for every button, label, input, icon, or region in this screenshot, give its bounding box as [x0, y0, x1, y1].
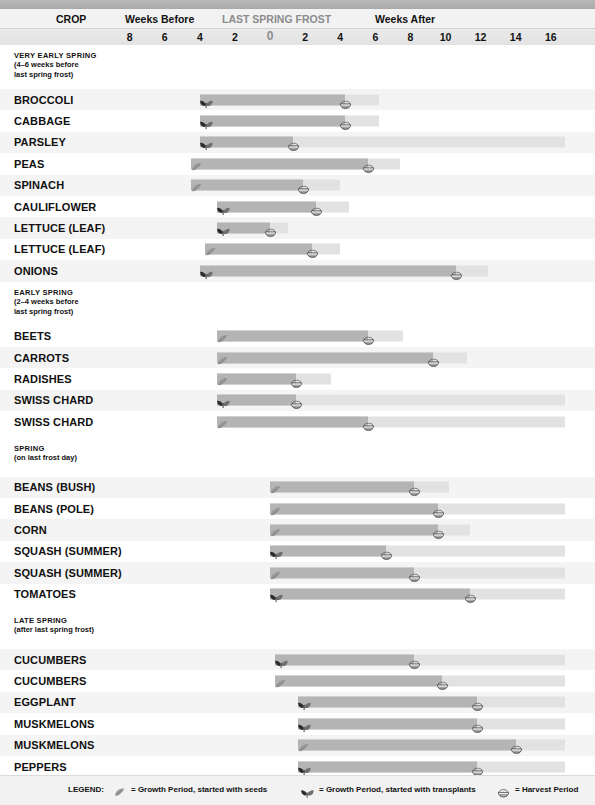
growth-period-bar	[217, 352, 433, 363]
growth-period-bar	[298, 718, 477, 729]
crop-label: LETTUCE (LEAF)	[14, 243, 105, 255]
crop-label: SWISS CHARD	[14, 416, 93, 428]
growth-period-bar	[270, 503, 438, 514]
section-caption: SPRING(on last frost day)	[14, 444, 77, 463]
axis-tick-14-11: 14	[510, 31, 522, 43]
crop-label: MUSKMELONS	[14, 718, 94, 730]
table-row[interactable]: CUCUMBERS	[0, 670, 595, 691]
crop-label: BEANS (BUSH)	[14, 481, 95, 493]
crop-label: SWISS CHARD	[14, 394, 93, 406]
axis-tick-2-3: 2	[232, 31, 238, 43]
crop-label: ONIONS	[14, 265, 58, 277]
table-row[interactable]: CARROTS	[0, 347, 595, 368]
harvest-basket-icon	[290, 396, 303, 405]
axis-tick-8-8: 8	[407, 31, 413, 43]
crop-label: BEETS	[14, 330, 51, 342]
table-row[interactable]: PEAS	[0, 153, 595, 174]
growth-period-bar	[200, 265, 456, 276]
harvest-basket-icon	[339, 117, 352, 126]
table-row[interactable]: SQUASH (SUMMER)	[0, 541, 595, 562]
harvest-basket-icon	[471, 719, 484, 728]
table-row[interactable]: EGGPLANT	[0, 692, 595, 713]
transplant-icon	[216, 223, 229, 234]
transplant-icon	[199, 116, 212, 127]
crop-label: CARROTS	[14, 352, 69, 364]
chart-header: CROP Weeks Before LAST SPRING FROST Week…	[0, 9, 595, 28]
harvest-basket-icon	[362, 332, 375, 341]
axis-tick-4-6: 4	[337, 31, 343, 43]
table-row[interactable]: LETTUCE (LEAF)	[0, 239, 595, 260]
growth-period-bar	[275, 676, 442, 687]
growth-period-bar	[270, 525, 438, 536]
table-row[interactable]: MUSKMELONS	[0, 735, 595, 756]
section-caption: VERY EARLY SPRING(4–6 weeks beforelast s…	[14, 51, 97, 80]
table-row[interactable]: PARSLEY	[0, 132, 595, 153]
table-row[interactable]: CAULIFLOWER	[0, 196, 595, 217]
table-row[interactable]: CUCUMBERS	[0, 649, 595, 670]
harvest-basket-icon	[362, 417, 375, 426]
seed-icon	[216, 331, 229, 342]
crop-label: PEAS	[14, 158, 44, 170]
growth-period-bar	[191, 180, 303, 191]
table-row[interactable]: TOMATOES	[0, 584, 595, 605]
seed-icon	[113, 784, 126, 802]
table-row[interactable]: BROCCOLI	[0, 89, 595, 110]
legend-item-0-label: = Growth Period, started with seeds	[131, 785, 267, 794]
seed-icon	[204, 244, 217, 255]
crop-label: CAULIFLOWER	[14, 201, 96, 213]
crop-label: MUSKMELONS	[14, 739, 94, 751]
axis-tick-10-9: 10	[440, 31, 452, 43]
table-row[interactable]: BEANS (BUSH)	[0, 477, 595, 498]
crop-label: CORN	[14, 524, 47, 536]
table-row[interactable]: SWISS CHARD	[0, 390, 595, 411]
growth-period-bar	[200, 94, 346, 105]
table-row[interactable]: BEETS	[0, 326, 595, 347]
table-row[interactable]: BEANS (POLE)	[0, 498, 595, 519]
transplant-icon	[297, 761, 310, 772]
crop-label: BROCCOLI	[14, 94, 73, 106]
table-row[interactable]: SQUASH (SUMMER)	[0, 562, 595, 583]
table-row[interactable]: ONIONS	[0, 260, 595, 281]
header-crop-label: CROP	[56, 13, 86, 25]
section-subtitle-line: (4–6 weeks before	[14, 60, 97, 70]
table-row[interactable]: RADISHES	[0, 368, 595, 389]
harvest-basket-icon	[408, 655, 421, 664]
section-title: VERY EARLY SPRING	[14, 51, 97, 60]
seed-icon	[216, 374, 229, 385]
transplant-icon	[199, 137, 212, 148]
harvest-basket-icon	[432, 504, 445, 513]
axis-tick-4-2: 4	[197, 31, 203, 43]
axis-tick-8-0: 8	[127, 31, 133, 43]
axis-tick-12-10: 12	[475, 31, 487, 43]
harvest-basket-icon	[408, 483, 421, 492]
table-row[interactable]: SPINACH	[0, 175, 595, 196]
harvest-basket-icon	[510, 741, 523, 750]
legend-item-1-label: = Growth Period, started with transplant…	[319, 785, 476, 794]
growth-period-bar	[275, 654, 414, 665]
harvest-basket-icon	[362, 159, 375, 168]
harvest-basket-icon	[339, 95, 352, 104]
seed-icon	[269, 525, 282, 536]
table-row[interactable]: LETTUCE (LEAF)	[0, 217, 595, 238]
table-row[interactable]: MUSKMELONS	[0, 713, 595, 734]
axis-tick-6-1: 6	[162, 31, 168, 43]
growth-period-bar	[298, 697, 477, 708]
transplant-icon	[297, 718, 310, 729]
crop-label: PEPPERS	[14, 761, 67, 773]
harvest-basket-icon	[432, 526, 445, 535]
harvest-basket-icon	[290, 375, 303, 384]
crop-label: RADISHES	[14, 373, 72, 385]
growth-period-bar	[270, 589, 470, 600]
table-row[interactable]: SWISS CHARD	[0, 411, 595, 432]
transplant-icon	[269, 546, 282, 557]
table-row[interactable]: CORN	[0, 519, 595, 540]
table-row[interactable]: CABBAGE	[0, 110, 595, 131]
seed-icon	[274, 676, 287, 687]
section-header-late-spring: LATE SPRING(after last spring frost)	[0, 605, 595, 649]
seed-icon	[190, 158, 203, 169]
section-subtitle-line: last spring frost)	[14, 70, 97, 80]
transplant-icon	[199, 94, 212, 105]
harvest-basket-icon	[464, 590, 477, 599]
growth-period-bar	[270, 482, 414, 493]
